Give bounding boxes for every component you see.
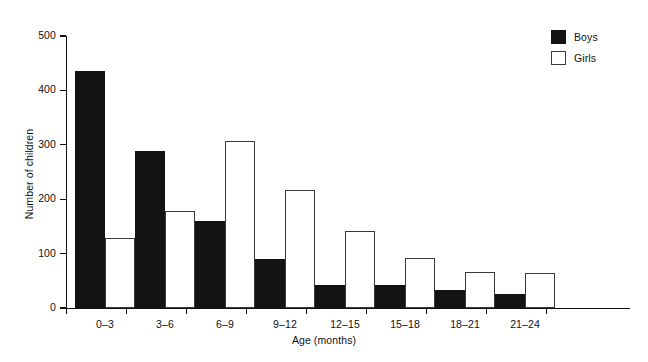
bar-girls-6-9 xyxy=(225,141,255,308)
y-axis-line xyxy=(66,36,67,308)
bar-boys-6-9 xyxy=(195,221,225,308)
bar-boys-0-3 xyxy=(75,71,105,308)
bar-chart-figure: 0100200300400500 Number of children 0–33… xyxy=(0,0,648,362)
legend-label-girls: Girls xyxy=(574,52,596,64)
bar-girls-15-18 xyxy=(405,258,435,308)
x-tick-3 xyxy=(246,308,247,314)
bar-girls-9-12 xyxy=(285,190,315,308)
bar-boys-12-15 xyxy=(315,285,345,308)
legend-swatch-girls-icon xyxy=(551,51,566,65)
x-tick-label-5: 15–18 xyxy=(375,318,435,330)
y-tick-label-400: 400 xyxy=(24,84,56,95)
x-tick-label-7: 21–24 xyxy=(495,318,555,330)
bar-girls-3-6 xyxy=(165,211,195,308)
y-tick-label-0: 0 xyxy=(24,302,56,313)
legend-label-boys: Boys xyxy=(574,31,598,43)
x-tick-7 xyxy=(486,308,487,314)
bar-girls-18-21 xyxy=(465,272,495,308)
bar-girls-12-15 xyxy=(345,231,375,308)
bar-girls-0-3 xyxy=(105,238,135,308)
y-tick-label-100: 100 xyxy=(24,248,56,259)
x-tick-label-4: 12–15 xyxy=(315,318,375,330)
x-tick-label-0: 0–3 xyxy=(75,318,135,330)
x-tick-5 xyxy=(366,308,367,314)
bar-boys-18-21 xyxy=(435,290,465,308)
bar-boys-9-12 xyxy=(255,259,285,308)
x-tick-end xyxy=(546,308,547,314)
x-tick-label-1: 3–6 xyxy=(135,318,195,330)
legend-item-girls: Girls xyxy=(551,49,641,67)
y-tick-300 xyxy=(60,144,66,145)
x-tick-label-3: 9–12 xyxy=(255,318,315,330)
x-tick-6 xyxy=(426,308,427,314)
x-tick-0 xyxy=(66,308,67,314)
legend-item-boys: Boys xyxy=(551,28,641,46)
y-tick-label-500: 500 xyxy=(24,30,56,41)
bar-boys-15-18 xyxy=(375,285,405,308)
y-tick-400 xyxy=(60,90,66,91)
x-tick-label-2: 6–9 xyxy=(195,318,255,330)
bar-boys-21-24 xyxy=(495,294,525,308)
x-axis-title: Age (months) xyxy=(0,334,648,346)
chart-legend: BoysGirls xyxy=(551,28,641,70)
y-axis-title: Number of children xyxy=(23,114,35,234)
y-tick-200 xyxy=(60,199,66,200)
bar-boys-3-6 xyxy=(135,151,165,308)
legend-swatch-boys-icon xyxy=(551,30,566,44)
x-tick-2 xyxy=(186,308,187,314)
y-tick-100 xyxy=(60,253,66,254)
x-tick-label-6: 18–21 xyxy=(435,318,495,330)
x-tick-1 xyxy=(126,308,127,314)
x-tick-4 xyxy=(306,308,307,314)
bar-girls-21-24 xyxy=(525,273,555,308)
y-tick-500 xyxy=(60,35,66,36)
